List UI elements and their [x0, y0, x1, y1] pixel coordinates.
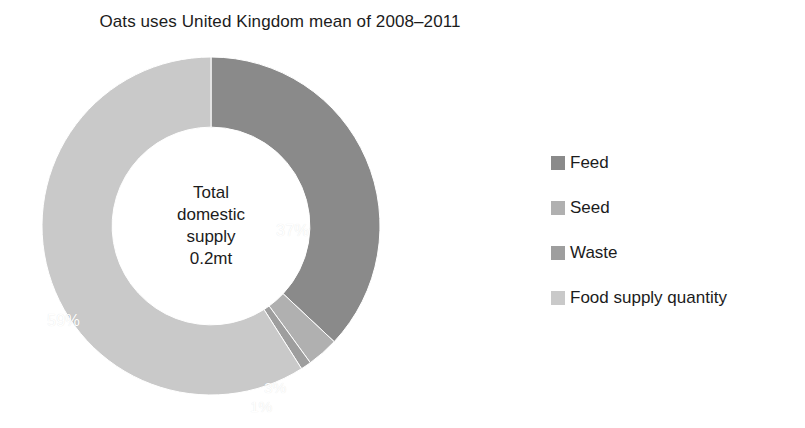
legend-item-feed[interactable]: Feed: [551, 140, 799, 185]
legend-item-label: Feed: [570, 153, 609, 173]
donut-slice-feed[interactable]: [211, 57, 380, 342]
legend-item-label: Food supply quantity: [570, 288, 727, 308]
legend-item-waste[interactable]: Waste: [551, 230, 799, 275]
donut-svg: [42, 57, 380, 395]
donut-chart-figure: Oats uses United Kingdom mean of 2008–20…: [0, 0, 805, 428]
legend-swatch-icon: [551, 201, 565, 215]
chart-title: Oats uses United Kingdom mean of 2008–20…: [0, 12, 560, 32]
donut-slices: [42, 57, 380, 395]
legend-item-label: Seed: [570, 198, 610, 218]
legend-item-food-supply-quantity[interactable]: Food supply quantity: [551, 275, 799, 320]
legend-item-label: Waste: [570, 243, 618, 263]
legend-item-seed[interactable]: Seed: [551, 185, 799, 230]
slice-value-waste: 1%: [250, 398, 272, 416]
legend-swatch-icon: [551, 291, 565, 305]
chart-legend: FeedSeedWasteFood supply quantity: [551, 140, 799, 320]
legend-swatch-icon: [551, 156, 565, 170]
donut-plot-area: Total domestic supply 0.2mt 37% 3% 1% 59…: [42, 57, 380, 395]
legend-swatch-icon: [551, 246, 565, 260]
